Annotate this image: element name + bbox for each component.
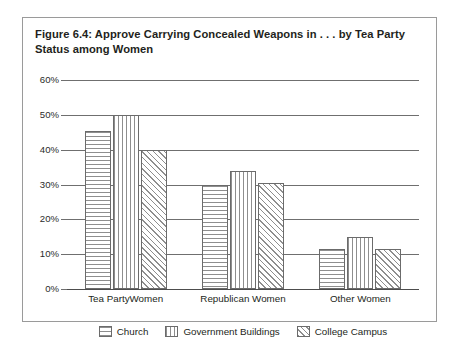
legend-swatch-icon [99, 326, 112, 337]
y-tick-mark-20 [61, 219, 67, 220]
y-axis-tick-label: 0% [27, 283, 59, 294]
bar [141, 150, 167, 289]
y-axis-tick-label: 10% [27, 248, 59, 259]
y-tick-mark-50 [61, 115, 67, 116]
bar [319, 249, 345, 289]
y-axis-tick-label: 20% [27, 213, 59, 224]
y-axis-tick-label: 50% [27, 109, 59, 120]
y-axis-tick-label: 30% [27, 179, 59, 190]
chart-legend: ChurchGovernment BuildingsCollege Campus [67, 326, 419, 337]
gridline-60 [67, 80, 419, 81]
bar [230, 171, 256, 289]
legend-swatch-icon [297, 326, 310, 337]
bar [375, 249, 401, 289]
x-axis-line [67, 289, 419, 290]
y-axis-tick-label: 60% [27, 74, 59, 85]
x-axis-category-label: Other Women [302, 293, 419, 304]
bar [347, 237, 373, 289]
y-tick-mark-60 [61, 80, 67, 81]
x-axis-category-label: Republican Women [184, 293, 301, 304]
legend-label: Church [117, 326, 149, 337]
bar [113, 115, 139, 289]
x-axis-category-label: Tea PartyWomen [67, 293, 184, 304]
bar [258, 183, 284, 289]
bar [202, 185, 228, 290]
legend-label: College Campus [315, 326, 387, 337]
bar [85, 131, 111, 289]
figure-title: Figure 6.4: Approve Carrying Concealed W… [35, 27, 423, 56]
legend-item: College Campus [297, 326, 387, 337]
legend-swatch-icon [165, 326, 178, 337]
y-tick-mark-10 [61, 254, 67, 255]
chart-plot-area: 0%10%20%30%40%50%60% Tea PartyWomenRepub… [67, 80, 419, 289]
y-axis-tick-label: 40% [27, 144, 59, 155]
legend-item: Church [99, 326, 149, 337]
figure-container: Figure 6.4: Approve Carrying Concealed W… [22, 17, 437, 322]
y-tick-mark-40 [61, 150, 67, 151]
y-tick-mark-30 [61, 185, 67, 186]
legend-item: Government Buildings [165, 326, 279, 337]
legend-label: Government Buildings [183, 326, 279, 337]
